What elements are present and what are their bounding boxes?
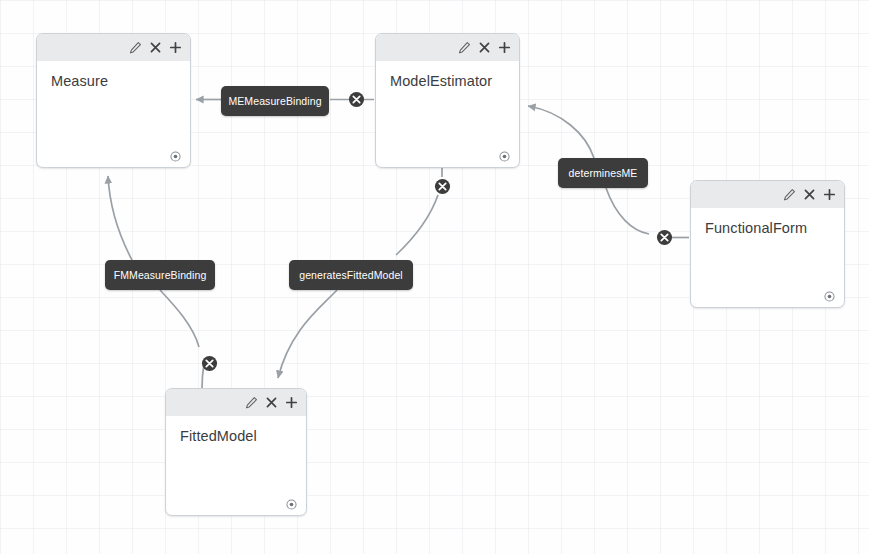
node-functional-form[interactable]: FunctionalForm — [690, 180, 845, 308]
edit-pencil-icon[interactable] — [129, 41, 142, 54]
add-icon[interactable] — [169, 41, 182, 54]
node-title: FunctionalForm — [691, 208, 844, 236]
anchor-target-icon[interactable] — [170, 148, 181, 159]
add-icon[interactable] — [498, 41, 511, 54]
node-measure[interactable]: Measure — [36, 33, 191, 168]
edge-delete-marker-determines[interactable] — [656, 229, 673, 246]
edge-delete-marker-me-measure[interactable] — [348, 91, 365, 108]
diagram-canvas[interactable]: Measure — [0, 0, 869, 554]
node-header — [166, 389, 306, 416]
edge-delete-marker-fm-measure[interactable] — [201, 355, 218, 372]
node-fitted-model[interactable]: FittedModel — [165, 388, 307, 516]
edit-pencil-icon[interactable] — [245, 396, 258, 409]
add-icon[interactable] — [823, 188, 836, 201]
close-icon[interactable] — [803, 188, 816, 201]
edge-label-me-measure-binding[interactable]: MEMeasureBinding — [221, 86, 329, 116]
close-icon[interactable] — [478, 41, 491, 54]
node-title: FittedModel — [166, 416, 306, 444]
edit-pencil-icon[interactable] — [458, 41, 471, 54]
edge-label-generates-fitted-model[interactable]: generatesFittedModel — [289, 260, 413, 290]
edit-pencil-icon[interactable] — [783, 188, 796, 201]
edge-label-fm-measure-binding[interactable]: FMMeasureBinding — [105, 260, 215, 290]
node-header — [376, 34, 519, 61]
node-model-estimator[interactable]: ModelEstimator — [375, 33, 520, 168]
close-icon[interactable] — [265, 396, 278, 409]
anchor-target-icon[interactable] — [824, 288, 835, 299]
node-title: Measure — [37, 61, 190, 89]
edge-delete-marker-generates[interactable] — [434, 178, 451, 195]
add-icon[interactable] — [285, 396, 298, 409]
node-title: ModelEstimator — [376, 61, 519, 89]
close-icon[interactable] — [149, 41, 162, 54]
anchor-target-icon[interactable] — [499, 148, 510, 159]
edge-label-determines-me[interactable]: determinesME — [558, 158, 648, 188]
anchor-target-icon[interactable] — [286, 496, 297, 507]
node-header — [37, 34, 190, 61]
node-header — [691, 181, 844, 208]
